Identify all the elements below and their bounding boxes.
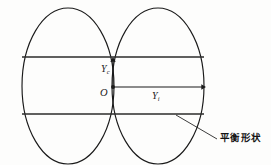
label-origin: O — [100, 88, 108, 99]
origin-dot-icon — [111, 85, 115, 89]
label-vertical-axis-subscript: c — [107, 68, 110, 75]
label-horizontal-axis-subscript: i — [158, 95, 160, 102]
leader-line-icon — [176, 115, 217, 139]
left-ellipse — [22, 8, 114, 164]
equilibrium-shape-figure: Yc Yi O 平衡形状 — [0, 0, 271, 165]
label-horizontal-axis-symbol: Y — [152, 90, 158, 101]
right-ellipse — [112, 8, 204, 164]
label-vertical-axis: Yc — [101, 64, 109, 74]
label-horizontal-axis: Yi — [152, 91, 159, 101]
label-equilibrium-shape: 平衡形状 — [220, 133, 262, 143]
label-vertical-axis-symbol: Y — [101, 63, 107, 74]
